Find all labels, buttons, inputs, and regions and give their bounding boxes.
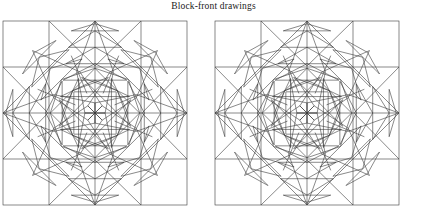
figure-caption: Block-front drawings [0, 1, 427, 11]
quilt-block-right [215, 21, 399, 205]
quilt-block-left [3, 21, 187, 205]
quilt-blocks-drawing [0, 0, 427, 221]
figure-container: Block-front drawings [0, 0, 427, 221]
